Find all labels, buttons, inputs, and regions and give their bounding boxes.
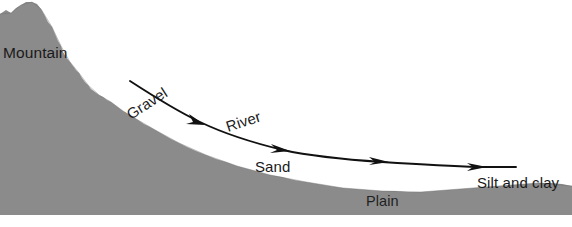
label-river: River [224, 108, 263, 135]
label-gravel: Gravel [123, 84, 170, 123]
diagram-canvas: Mountain Gravel River Sand Plain Silt an… [0, 0, 572, 227]
label-mountain: Mountain [3, 44, 68, 61]
label-silt-and-clay: Silt and clay [477, 174, 560, 191]
river-profile-diagram: Mountain Gravel River Sand Plain Silt an… [0, 0, 572, 227]
label-sand: Sand [255, 158, 290, 175]
label-plain: Plain [366, 193, 399, 209]
